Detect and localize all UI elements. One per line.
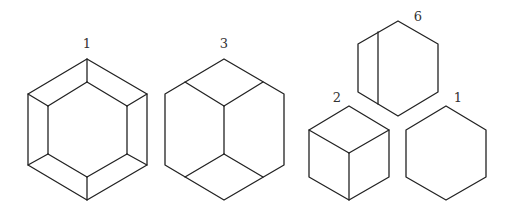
edge-line [48,154,87,177]
edge-line [87,82,127,106]
figure-label: 1 [454,90,462,105]
edge-line [224,82,263,106]
edge-line [48,82,87,106]
inner-edges [185,82,263,177]
edge-line [185,82,224,106]
figure-label: 6 [414,9,422,24]
figure-hex-split: 6 [358,9,438,116]
figure-label: 1 [83,36,91,51]
edge-line [349,130,389,153]
edge-line [185,154,224,177]
inner-edges [309,130,389,200]
figure-cube: 2 [309,90,389,200]
edge-line [224,154,263,177]
edge-line [127,94,147,106]
inner-edges [28,59,147,200]
diagram-canvas: 1 3 6 2 1 [0,0,514,212]
edge-line [28,154,48,165]
edge-line [87,154,127,177]
figure-label: 2 [333,90,341,105]
figure-label: 3 [220,36,228,51]
figure-hex-three-faces: 3 [165,36,284,200]
edge-line [309,130,349,153]
edge-line [28,94,48,106]
outer-hexagon [358,21,438,116]
figure-hex-plain: 1 [406,90,486,200]
outer-hexagon [406,106,486,200]
figure-hex-beveled: 1 [28,36,147,200]
edge-line [127,154,147,165]
